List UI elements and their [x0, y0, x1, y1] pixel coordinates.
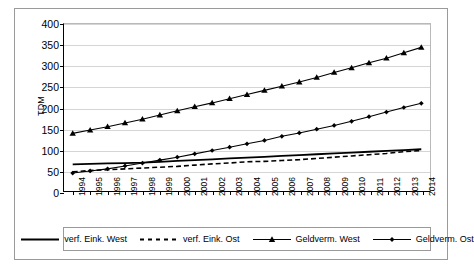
data-point-marker [418, 44, 424, 50]
legend-swatch [139, 234, 179, 245]
x-tick-mark [423, 191, 424, 195]
y-tick-label: 400 [41, 18, 59, 30]
data-point-marker [262, 138, 267, 143]
x-tick-mark [143, 191, 144, 195]
x-tick-mark [266, 191, 267, 195]
series-4 [70, 101, 423, 175]
series-line [73, 149, 422, 164]
x-tick-mark [230, 191, 231, 195]
legend-item-1[interactable]: verf. Eink. West [20, 234, 127, 245]
data-point-marker [227, 145, 232, 150]
data-point-marker [401, 105, 406, 110]
x-tick-mark [125, 191, 126, 195]
data-point-marker [192, 151, 197, 156]
x-tick-mark [178, 191, 179, 195]
data-point-marker [314, 127, 319, 132]
data-point-marker [332, 123, 337, 128]
series-layer [64, 24, 430, 191]
series-line [73, 151, 422, 172]
x-tick-mark [301, 191, 302, 195]
data-point-marker [419, 101, 424, 106]
data-point-marker [123, 164, 128, 169]
x-tick-mark [213, 191, 214, 195]
y-tick-label: 0 [53, 187, 59, 199]
x-tick-mark [248, 191, 249, 195]
y-tick-mark [60, 193, 64, 194]
y-tick-label: 300 [41, 60, 59, 72]
x-tick-mark [318, 191, 319, 195]
x-tick-mark [108, 191, 109, 195]
x-tick-mark [388, 191, 389, 195]
legend-item-2[interactable]: verf. Eink. Ost [139, 234, 240, 245]
x-tick-mark [73, 191, 74, 195]
legend-swatch [252, 234, 292, 245]
y-tick-label: 50 [47, 166, 59, 178]
data-point-marker [384, 110, 389, 115]
chart-figure: TDM 050100150200250300350400 19941995199… [14, 8, 448, 260]
data-point-marker [245, 141, 250, 146]
y-tick-label: 150 [41, 124, 59, 136]
y-tick-label: 350 [41, 39, 59, 51]
data-point-marker [140, 161, 145, 166]
y-tick-label: 250 [41, 81, 59, 93]
y-tick-label: 100 [41, 145, 59, 157]
series-3 [70, 44, 425, 136]
plot-area: 050100150200250300350400 199419951996199… [63, 23, 431, 192]
legend-item-4[interactable]: Geldverm. Ost [372, 234, 474, 245]
data-point-marker [367, 114, 372, 119]
x-tick-mark [283, 191, 284, 195]
legend-label: verf. Eink. West [64, 234, 127, 244]
legend-label: verf. Eink. Ost [183, 234, 240, 244]
legend-label: Geldverm. Ost [416, 234, 474, 244]
x-tick-mark [371, 191, 372, 195]
data-point-marker [175, 155, 180, 160]
data-point-marker [279, 134, 284, 139]
data-point-marker [297, 131, 302, 136]
x-tick-mark [353, 191, 354, 195]
data-point-marker [88, 169, 93, 174]
x-tick-mark [160, 191, 161, 195]
x-tick-mark [90, 191, 91, 195]
series-2 [73, 151, 422, 172]
chart-legend: verf. Eink. Westverf. Eink. OstGeldverm.… [63, 227, 431, 251]
legend-label: Geldverm. West [296, 234, 360, 244]
x-tick-mark [195, 191, 196, 195]
x-tick-mark [406, 191, 407, 195]
series-1 [73, 149, 422, 164]
y-tick-label: 200 [41, 103, 59, 115]
x-tick-mark [336, 191, 337, 195]
data-point-marker [210, 148, 215, 153]
legend-swatch [20, 234, 60, 245]
legend-item-3[interactable]: Geldverm. West [252, 234, 360, 245]
data-point-marker [349, 119, 354, 124]
legend-swatch [372, 234, 412, 245]
